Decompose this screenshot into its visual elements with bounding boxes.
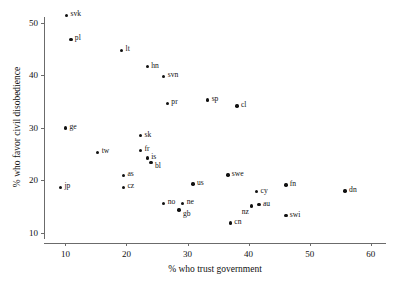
y-tick-label-10: 10 [29,228,38,238]
data-point-as [122,174,125,177]
data-point-ne [181,202,184,205]
y-tick-label-30: 30 [29,123,38,133]
data-point-sp [206,98,209,101]
x-tick-label-20: 20 [122,249,131,259]
data-point-label-fr: fr [144,146,149,154]
data-point-label-fn: fn [290,180,296,188]
data-point-label-nz: nz [242,208,249,216]
data-point-pr [166,102,169,105]
data-point-label-us: us [197,179,204,187]
x-axis-title: % who trust government [168,264,262,275]
x-tick-60 [371,243,372,246]
data-point-no [162,202,165,205]
data-point-label-cz: cz [127,183,134,191]
y-axis-title: % who favor civil disobedience [12,66,23,186]
data-point-label-jp: jp [64,183,70,191]
y-tick-label-50: 50 [29,18,38,28]
data-point-label-svk: svk [71,11,82,19]
data-point-swe [226,173,229,176]
data-point-label-lt: lt [126,46,130,54]
data-point-cn [229,221,232,224]
x-tick-label-60: 60 [366,249,375,259]
data-point-is [146,156,149,159]
data-point-dn [343,189,346,192]
y-tick-40 [41,75,44,76]
data-point-jp [59,186,62,189]
y-tick-50 [41,23,44,24]
data-point-label-hn: hn [151,62,159,70]
x-tick-label-10: 10 [61,249,70,259]
data-point-bl [149,161,152,164]
data-point-svk [65,14,68,17]
data-point-svn [162,75,165,78]
data-point-au [257,203,260,206]
x-axis-line [44,243,386,244]
x-tick-20 [126,243,127,246]
data-point-label-pr: pr [171,99,177,107]
data-point-cy [255,190,258,193]
x-tick-40 [249,243,250,246]
data-point-label-au: au [263,200,270,208]
data-point-label-svn: svn [168,72,179,80]
x-tick-10 [65,243,66,246]
data-point-label-cn: cn [234,218,241,226]
data-point-nz [250,204,253,207]
plot-area: 102030405060 1020304050 svkpllthnsvnprsp… [0,0,400,284]
data-point-label-dn: dn [349,187,357,195]
x-tick-label-30: 30 [183,249,192,259]
data-point-label-cy: cy [261,187,268,195]
y-tick-20 [41,180,44,181]
data-point-hn [146,65,149,68]
data-point-label-sk: sk [144,131,151,139]
data-point-lt [120,49,123,52]
data-point-cz [122,186,125,189]
data-point-label-bl: bl [155,162,161,170]
x-tick-50 [310,243,311,246]
data-point-label-no: no [168,199,176,207]
data-point-label-swe: swe [232,170,244,178]
data-point-label-swi: swi [290,211,301,219]
data-point-gb [177,208,180,211]
data-point-fr [139,149,142,152]
data-point-swi [284,214,287,217]
data-point-us [191,182,194,185]
data-point-label-pl: pl [75,35,81,43]
data-point-fn [284,183,287,186]
x-tick-label-50: 50 [305,249,314,259]
data-point-label-gb: gb [183,210,191,218]
data-point-cl [235,104,238,107]
data-point-label-tw: tw [102,148,110,156]
y-tick-30 [41,128,44,129]
data-point-label-ge: ge [69,123,76,131]
y-axis-line [44,17,45,238]
scatter-plot-figure: 102030405060 1020304050 svkpllthnsvnprsp… [0,0,400,284]
y-tick-label-40: 40 [29,70,38,80]
data-point-ge [64,126,67,129]
data-point-sk [139,134,142,137]
data-point-pl [69,38,72,41]
y-tick-label-20: 20 [29,175,38,185]
data-point-label-cl: cl [241,101,246,109]
data-point-label-as: as [127,171,133,179]
data-point-label-ne: ne [187,199,194,207]
x-tick-label-40: 40 [244,249,253,259]
y-tick-10 [41,233,44,234]
data-point-tw [96,151,99,154]
x-tick-30 [188,243,189,246]
data-point-label-sp: sp [212,95,219,103]
